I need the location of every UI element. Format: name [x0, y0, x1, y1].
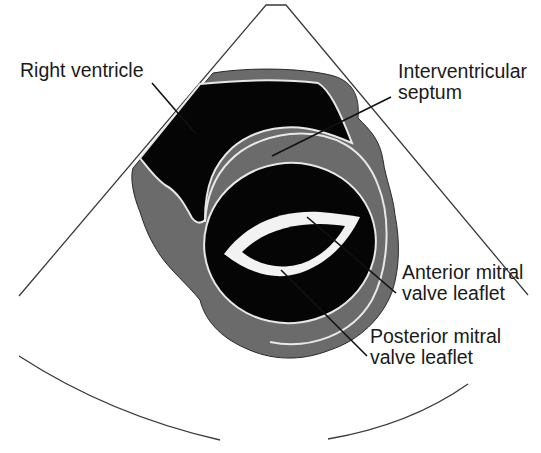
sector-arc-left — [19, 356, 220, 440]
label-interventricular-septum: Interventricularseptum — [398, 61, 527, 103]
label-line: valve leaflet — [370, 347, 501, 368]
label-anterior-mitral-valve-leaflet: Anterior mitralvalve leaflet — [402, 262, 523, 304]
label-line: Posterior mitral — [370, 326, 501, 347]
label-posterior-mitral-valve-leaflet: Posterior mitralvalve leaflet — [370, 326, 501, 368]
label-line: valve leaflet — [402, 283, 523, 304]
label-line: Anterior mitral — [402, 262, 523, 283]
label-line: Right ventricle — [20, 60, 144, 81]
sector-arc-right — [328, 384, 468, 439]
echocardiogram-diagram: Right ventricleInterventricularseptumAnt… — [0, 0, 541, 453]
label-line: Interventricular — [398, 61, 527, 82]
label-right-ventricle: Right ventricle — [20, 60, 144, 81]
label-line: septum — [398, 82, 527, 103]
